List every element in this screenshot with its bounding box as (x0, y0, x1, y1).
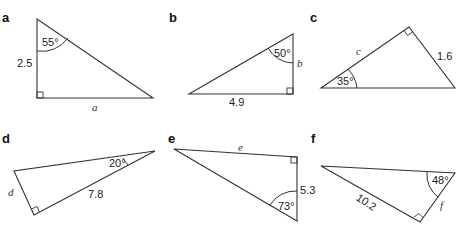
angle-value-b: 50° (274, 47, 291, 59)
side-value-f: 10.2 (354, 191, 379, 213)
side-value-e: 5.3 (300, 184, 315, 196)
angle-value-a: 55° (42, 36, 59, 48)
unknown-side-c: c (356, 45, 361, 57)
triangle-d: d 20° d 7.8 (2, 131, 155, 215)
triangle-c: c 35° c 1.6 (310, 10, 455, 88)
triangle-b-shape (189, 34, 293, 94)
triangle-f: f 48° 10.2 f (311, 131, 455, 222)
unknown-side-f: f (440, 199, 445, 211)
part-label-e: e (168, 131, 175, 146)
triangle-e: e 73° 5.3 e (168, 131, 315, 221)
side-value-a: 2.5 (17, 57, 32, 69)
part-label-a: a (2, 10, 10, 25)
unknown-side-e: e (238, 141, 243, 153)
triangle-d-shape (14, 151, 155, 215)
side-value-b: 4.9 (229, 96, 244, 108)
unknown-side-d: d (8, 186, 14, 198)
part-label-b: b (169, 10, 177, 25)
right-angle-mark-a (37, 92, 43, 98)
part-label-f: f (311, 131, 316, 146)
right-angle-mark-b (287, 88, 293, 94)
right-triangles-figure: a 55° 2.5 a b 50° b 4.9 c 35° c 1.6 d 20… (0, 0, 464, 231)
right-angle-mark-f (414, 214, 423, 218)
unknown-side-b: b (297, 57, 303, 69)
unknown-side-a: a (92, 101, 98, 113)
angle-value-f: 48° (432, 174, 449, 186)
part-label-c: c (310, 10, 317, 25)
triangle-b: b 50° b 4.9 (169, 10, 303, 108)
angle-value-e: 73° (278, 200, 295, 212)
part-label-d: d (2, 131, 10, 146)
angle-value-d: 20° (109, 157, 126, 169)
right-angle-mark-c (404, 31, 413, 36)
side-value-c: 1.6 (437, 50, 452, 62)
side-value-d: 7.8 (88, 188, 103, 200)
triangle-a: a 55° 2.5 a (2, 10, 153, 113)
triangle-a-shape (37, 19, 153, 98)
angle-value-c: 35° (337, 75, 354, 87)
right-angle-mark-e (291, 157, 297, 163)
